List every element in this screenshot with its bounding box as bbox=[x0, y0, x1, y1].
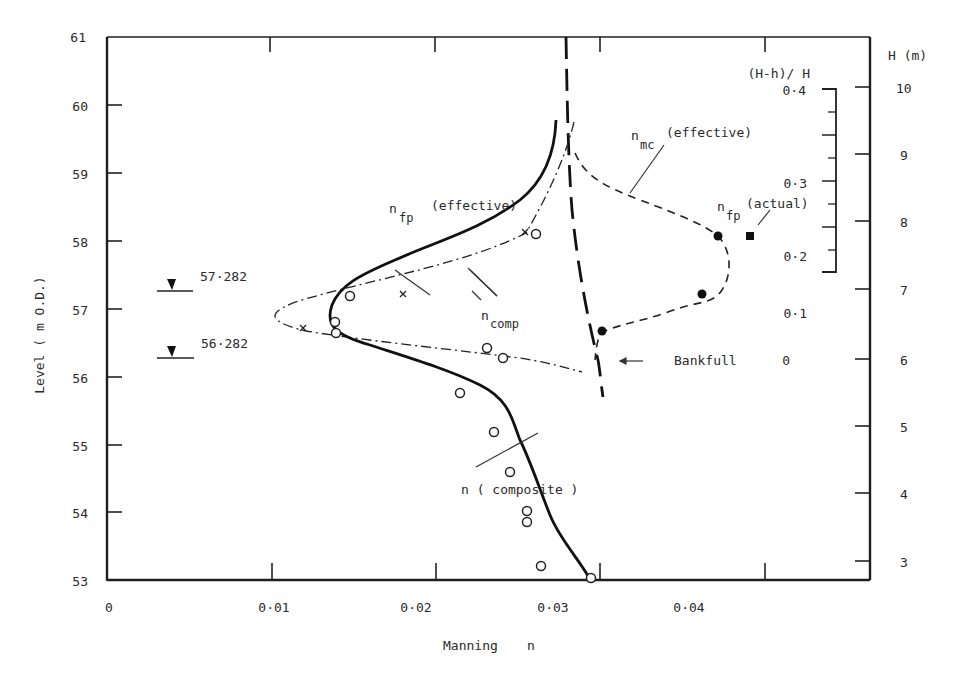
chart-svg: 61 60 59 58 57 56 55 54 53 0 0·01 0·02 0… bbox=[0, 0, 967, 685]
nfp-effective-text: (effective) bbox=[431, 198, 517, 213]
y-tick-56: 56 bbox=[72, 371, 88, 386]
outer-right-axis bbox=[855, 87, 870, 561]
outer-right-labels: 10 9 8 7 6 5 4 3 H (m) bbox=[888, 48, 927, 570]
x-axis-symbol: n bbox=[527, 638, 535, 653]
nmc-points bbox=[598, 232, 723, 336]
y-axis-title: Level ( m O.D.) bbox=[32, 276, 47, 393]
nfp-actual-point bbox=[746, 232, 754, 240]
outer-tick-9: 9 bbox=[900, 148, 908, 163]
nfp-actual-sub: fp bbox=[726, 209, 740, 223]
water-level-label-2: 56·282 bbox=[201, 336, 248, 351]
x-tick-0: 0 bbox=[105, 600, 113, 615]
annotations: n fp (effective) n comp n mc (effective)… bbox=[389, 125, 809, 497]
y-tick-55: 55 bbox=[72, 439, 88, 454]
inner-tick-03: 0·3 bbox=[784, 176, 807, 191]
ncomp-n: n bbox=[481, 308, 489, 323]
chart-figure: 61 60 59 58 57 56 55 54 53 0 0·01 0·02 0… bbox=[0, 0, 967, 685]
water-level-markers bbox=[157, 279, 194, 358]
composite-label: n ( composite ) bbox=[461, 482, 578, 497]
outer-tick-5: 5 bbox=[900, 420, 908, 435]
outer-tick-4: 4 bbox=[900, 487, 908, 502]
inner-axis-title: (H-h)/ H bbox=[747, 66, 810, 81]
nmc-n: n bbox=[631, 128, 639, 143]
outer-tick-6: 6 bbox=[900, 353, 908, 368]
y-tick-57: 57 bbox=[72, 303, 88, 318]
inner-tick-01: 0·1 bbox=[784, 306, 807, 321]
water-level-icon bbox=[167, 346, 176, 357]
nfp-effective-n: n bbox=[389, 201, 397, 216]
series-n-composite bbox=[330, 120, 591, 581]
water-level-icon bbox=[167, 279, 176, 290]
y-axis-labels: 61 60 59 58 57 56 55 54 53 bbox=[70, 30, 88, 589]
x-axis-title: Manning bbox=[443, 638, 498, 653]
nfp-actual-text: (actual) bbox=[746, 196, 809, 211]
y-tick-58: 58 bbox=[72, 235, 88, 250]
nfp-crosses bbox=[300, 229, 528, 331]
outer-axis-title: H (m) bbox=[888, 48, 927, 63]
outer-tick-7: 7 bbox=[900, 283, 908, 298]
nfp-actual-n: n bbox=[717, 199, 725, 214]
x-tick-004: 0·04 bbox=[673, 600, 704, 615]
ncomp-sub: comp bbox=[490, 317, 519, 331]
x-tick-001: 0·01 bbox=[258, 600, 289, 615]
annotation-leaders bbox=[395, 145, 770, 467]
inner-tick-04: 0·4 bbox=[783, 83, 807, 98]
y-tick-54: 54 bbox=[72, 506, 88, 521]
nfp-effective-sub: fp bbox=[399, 211, 413, 225]
bankfull-label: Bankfull bbox=[674, 353, 737, 368]
nmc-text: (effective) bbox=[666, 125, 752, 140]
y-tick-61: 61 bbox=[70, 30, 86, 45]
outer-tick-8: 8 bbox=[900, 215, 908, 230]
inner-tick-0: 0 bbox=[782, 353, 790, 368]
nmc-sub: mc bbox=[640, 138, 654, 152]
y-axis-ticks bbox=[107, 37, 765, 580]
x-tick-003: 0·03 bbox=[537, 600, 568, 615]
outer-tick-3: 3 bbox=[900, 555, 908, 570]
y-tick-59: 59 bbox=[72, 167, 88, 182]
y-tick-60: 60 bbox=[72, 99, 88, 114]
inner-right-labels: 0·4 0·3 0·2 0·1 0 (H-h)/ H bbox=[747, 66, 810, 368]
x-tick-002: 0·02 bbox=[400, 600, 431, 615]
outer-tick-10: 10 bbox=[896, 81, 912, 96]
inner-right-axis bbox=[822, 89, 836, 272]
y-tick-53: 53 bbox=[72, 574, 88, 589]
water-level-label-1: 57·282 bbox=[200, 269, 247, 284]
inner-tick-02: 0·2 bbox=[784, 249, 807, 264]
x-axis-labels: 0 0·01 0·02 0·03 0·04 bbox=[105, 600, 705, 615]
